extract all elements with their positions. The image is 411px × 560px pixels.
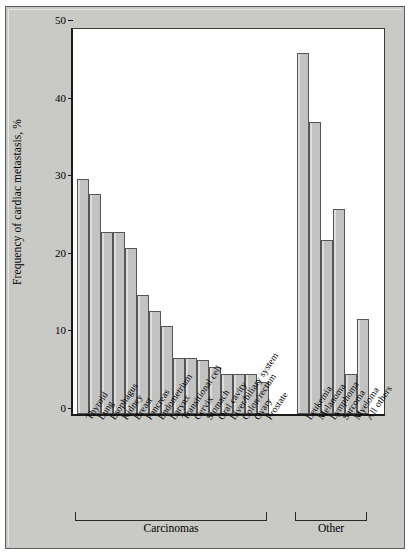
bar-thyroid <box>77 179 89 414</box>
y-tick-50: 50 <box>33 14 73 26</box>
bars-layer <box>73 29 384 414</box>
bracket-carcinomas <box>75 512 267 521</box>
x-axis-tick-labels: ThyroidLungEsophagusKidneyBreastPancreas… <box>71 416 385 508</box>
plot-area: 01020304050 <box>71 28 385 416</box>
bracket-label-carcinomas: Carcinomas <box>75 522 267 534</box>
group-brackets: CarcinomasOther <box>71 512 385 546</box>
bar-lung <box>89 194 101 414</box>
y-tick-40: 40 <box>33 92 73 104</box>
figure-container: Frequency of cardiac metastasis, % 01020… <box>0 0 411 560</box>
bar-kidney <box>113 232 125 414</box>
bar-melanoma <box>309 122 321 414</box>
bracket-other <box>295 512 367 521</box>
y-tick-10: 10 <box>33 324 73 336</box>
y-tick-20: 20 <box>33 247 73 259</box>
bracket-label-other: Other <box>295 522 367 534</box>
bar-esophagus <box>101 232 113 414</box>
bar-leukemia <box>297 53 309 414</box>
y-axis-label: Frequency of cardiac metastasis, % <box>11 52 23 352</box>
y-tick-30: 30 <box>33 169 73 181</box>
y-tick-0: 0 <box>33 402 73 414</box>
